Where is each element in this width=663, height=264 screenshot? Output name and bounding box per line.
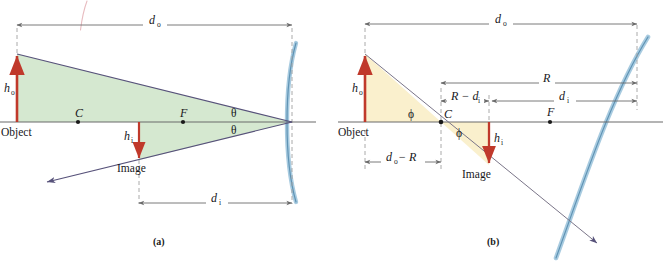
label-theta-upper: θ — [231, 107, 237, 119]
label-hi: h — [124, 129, 130, 143]
label-ho-subscript: o — [359, 88, 363, 97]
label-point-c: C — [75, 106, 84, 120]
label-object: Object — [338, 126, 369, 139]
upper-similar-triangle — [365, 54, 441, 122]
label-ho: h — [352, 81, 358, 95]
di-label-backdrop — [206, 193, 228, 208]
stray-pen-mark — [81, 1, 88, 30]
label-r: R — [542, 71, 551, 85]
lower-similar-triangle — [441, 122, 489, 165]
point-c-marker — [439, 120, 444, 125]
point-f-marker — [548, 120, 552, 124]
label-image: Image — [117, 162, 146, 175]
label-do: d — [149, 13, 156, 27]
label-r-minus-di: R − d — [450, 89, 479, 103]
label-do: d — [495, 12, 502, 26]
optics-figure: d o d i h o h i Object Image C F θ θ — [0, 0, 663, 264]
label-ho-subscript: o — [11, 88, 15, 97]
label-phi-right: ϕ — [456, 127, 462, 140]
label-point-c: C — [444, 107, 453, 121]
point-f-marker — [181, 120, 185, 124]
panel-b: d o R R − d i d i d o − R h o h i Object… — [338, 12, 663, 258]
panel-a-caption: (a) — [153, 236, 165, 247]
label-phi-left: ϕ — [408, 108, 414, 121]
label-di: d — [211, 191, 218, 205]
label-di-subscript: i — [567, 96, 569, 105]
label-do-subscript: o — [503, 19, 507, 28]
label-point-f: F — [546, 105, 555, 119]
label-hi-subscript: i — [131, 136, 133, 145]
label-image: Image — [462, 168, 491, 181]
label-ho: h — [4, 81, 10, 95]
label-di-subscript: i — [219, 198, 221, 207]
label-do-minus-r: d — [386, 150, 393, 164]
label-r-minus-di-subscript: i — [478, 96, 480, 105]
do-label-backdrop — [489, 14, 513, 29]
panel-b-caption: (b) — [487, 236, 499, 247]
label-point-f: F — [179, 106, 188, 120]
di-label-backdrop — [554, 91, 576, 106]
label-hi: h — [494, 131, 500, 145]
panel-a: d o d i h o h i Object Image C F θ θ — [0, 1, 316, 208]
label-do-subscript: o — [157, 20, 161, 29]
label-do-minus-r-suffix: − R — [398, 150, 417, 164]
point-c-marker — [76, 120, 80, 124]
ray-through-center — [365, 54, 597, 243]
label-hi-subscript: i — [501, 138, 503, 147]
label-theta-lower: θ — [231, 124, 237, 136]
label-di: d — [559, 89, 566, 103]
do-label-backdrop — [143, 15, 167, 30]
concave-mirror — [556, 37, 648, 258]
label-object: Object — [1, 126, 32, 139]
